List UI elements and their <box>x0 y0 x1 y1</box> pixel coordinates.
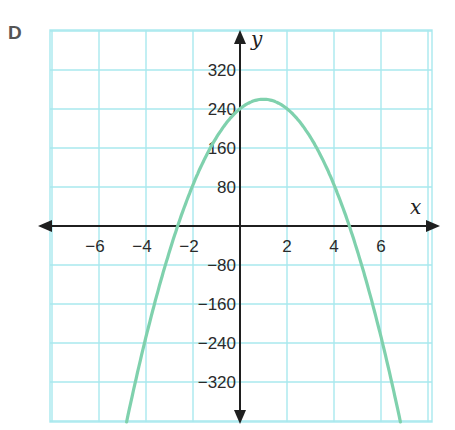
y-tick-label: −240 <box>198 334 236 353</box>
y-tick-label: 80 <box>217 178 236 197</box>
y-tick-label: −80 <box>207 256 236 275</box>
x-tick-label: 4 <box>329 237 338 256</box>
x-tick-label: 2 <box>282 237 291 256</box>
x-tick-label: −4 <box>132 237 151 256</box>
x-axis-label: x <box>410 195 421 219</box>
x-tick-label: 6 <box>376 237 385 256</box>
x-tick-label: −6 <box>85 237 104 256</box>
x-tick-label: −2 <box>179 237 198 256</box>
y-tick-label: −160 <box>198 295 236 314</box>
y-axis-label: y <box>250 27 263 51</box>
y-tick-label: −320 <box>198 373 236 392</box>
parabola-chart: −6−4−224632024016080−80−160−240−320 x y <box>0 0 455 430</box>
y-tick-label: 320 <box>208 61 236 80</box>
